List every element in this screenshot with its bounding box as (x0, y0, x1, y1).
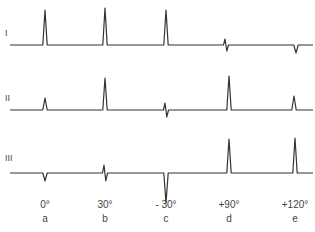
angle-label: +90° (209, 199, 249, 210)
angle-label: - 30° (146, 199, 186, 210)
angle-label: +120° (275, 199, 315, 210)
angle-label: 0° (25, 199, 65, 210)
letter-label: e (275, 213, 315, 224)
lead-trace-iii (10, 138, 313, 203)
letter-label: d (209, 213, 249, 224)
lead-label: III (5, 153, 13, 163)
letter-label: c (146, 213, 186, 224)
lead-label: II (5, 93, 10, 103)
letter-label: b (85, 213, 125, 224)
ecg-traces (0, 0, 315, 232)
angle-label: 30° (85, 199, 125, 210)
lead-trace-ii (10, 76, 313, 117)
lead-trace-i (10, 8, 313, 53)
letter-label: a (25, 213, 65, 224)
lead-label: I (5, 28, 8, 38)
